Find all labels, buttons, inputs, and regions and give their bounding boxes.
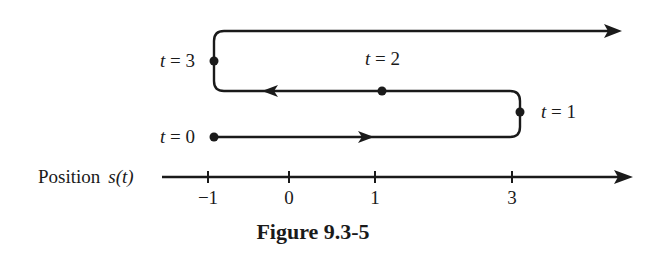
label-t0: t = 0 bbox=[160, 126, 195, 147]
label-t1: t = 1 bbox=[541, 101, 576, 122]
figure-caption: Figure 9.3-5 bbox=[256, 219, 369, 244]
axis-label: Positions(t) bbox=[38, 166, 134, 188]
tick-label-3: 3 bbox=[507, 187, 517, 208]
tick-label-minus1: −1 bbox=[198, 187, 218, 208]
label-t3: t = 3 bbox=[160, 50, 195, 71]
point-t0 bbox=[210, 133, 219, 142]
point-t2 bbox=[378, 87, 387, 96]
motion-diagram: t = 3 t = 2 t = 1 t = 0 Positions(t) −1 … bbox=[0, 0, 661, 255]
tick-label-1: 1 bbox=[370, 187, 380, 208]
path-segment-after-t3 bbox=[224, 24, 622, 38]
point-t1 bbox=[516, 108, 525, 117]
position-axis: Positions(t) −1 0 1 3 bbox=[38, 166, 633, 208]
path-segment-t0-t1 bbox=[214, 91, 520, 143]
label-t2: t = 2 bbox=[365, 48, 400, 69]
path-segment-t1-t3 bbox=[214, 31, 510, 97]
point-t3 bbox=[210, 57, 219, 66]
tick-label-0: 0 bbox=[284, 187, 294, 208]
